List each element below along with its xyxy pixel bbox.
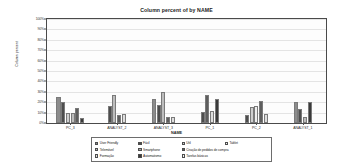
x-axis-labels: PC_3ANALYST_2ANALYST_3PC_1PC_2ANALYST_1: [47, 126, 326, 130]
legend-label: Formação: [100, 154, 114, 158]
legend-swatch-icon: [138, 148, 141, 151]
legend-label: Fácil: [143, 141, 149, 145]
x-axis-tick-label: ANALYST_3: [140, 126, 187, 130]
x-axis-tick-label: ANALYST_1: [280, 126, 327, 130]
y-axis-tick: [44, 71, 46, 72]
x-axis-tick-label: ANALYST_2: [94, 126, 141, 130]
y-axis-tick: [44, 39, 46, 40]
bar-group: [187, 19, 234, 123]
bar: [108, 106, 112, 123]
bar: [171, 117, 175, 123]
bar: [166, 117, 170, 123]
bar: [161, 92, 165, 123]
legend-item[interactable]: Tarefas básicas: [182, 153, 225, 159]
bar-group: [47, 19, 94, 123]
y-axis-tick: [44, 102, 46, 103]
y-axis-tick: [44, 91, 46, 92]
bar: [264, 114, 268, 123]
legend-label: Tarefas básicas: [186, 154, 207, 158]
bar-group: [140, 19, 187, 123]
y-axis-tick-label: 100%: [36, 17, 44, 21]
x-axis-tick: [70, 123, 71, 125]
y-axis-tick: [44, 60, 46, 61]
bar: [157, 105, 161, 123]
legend-swatch-icon: [138, 154, 141, 157]
legend-label: Tablet: [230, 141, 238, 145]
legend-label: User Friendly: [100, 141, 118, 145]
x-axis-tick-label: PC_2: [233, 126, 280, 130]
bar: [56, 97, 60, 123]
bar: [259, 101, 263, 123]
bar: [122, 114, 126, 123]
bar: [210, 111, 214, 123]
legend-label: Smartphone: [143, 148, 160, 152]
y-axis-tick: [44, 81, 46, 82]
legend-swatch-icon: [95, 154, 98, 157]
x-axis-tick: [117, 123, 118, 125]
x-axis-tick-label: PC_3: [47, 126, 94, 130]
chart-container: Column percent of by NAME Column percent…: [0, 0, 353, 167]
bar-group: [94, 19, 141, 123]
bar: [294, 102, 298, 123]
bar: [75, 108, 79, 123]
legend-label: Criação de pedidos de compra: [186, 148, 228, 152]
legend-label: Automatismo: [143, 154, 161, 158]
bar: [152, 99, 156, 123]
bar: [66, 113, 70, 123]
bar-groups: [47, 19, 326, 123]
legend-label: Útil: [186, 141, 190, 145]
bar-group: [280, 19, 327, 123]
y-axis-tick: [44, 123, 46, 124]
bar: [80, 118, 84, 123]
legend-label: Telemóvel: [100, 148, 114, 152]
legend-swatch-icon: [182, 154, 185, 157]
bar-group: [233, 19, 280, 123]
x-axis-tick: [303, 123, 304, 125]
y-axis-tick: [44, 29, 46, 30]
bar: [308, 102, 312, 123]
chart-legend: User FriendlyFácilÚtilTabletTelemóvelSma…: [91, 137, 272, 162]
bar: [61, 102, 65, 123]
legend-swatch-icon: [138, 142, 141, 145]
bar: [245, 115, 249, 123]
x-axis-tick: [210, 123, 211, 125]
bar: [112, 95, 116, 123]
chart-title: Column percent of by NAME: [0, 7, 353, 13]
bar: [254, 106, 258, 123]
bar: [205, 95, 209, 123]
bar: [201, 112, 205, 123]
legend-swatch-icon: [225, 142, 228, 145]
bar: [215, 99, 219, 123]
y-axis-tick: [44, 50, 46, 51]
legend-swatch-icon: [95, 148, 98, 151]
legend-item[interactable]: Formação: [95, 153, 138, 159]
x-axis-tick: [256, 123, 257, 125]
legend-item[interactable]: Automatismo: [138, 153, 181, 159]
legend-swatch-icon: [95, 142, 98, 145]
x-axis-title: NAME: [0, 131, 353, 135]
y-axis-tick: [44, 19, 46, 20]
legend-swatch-icon: [182, 142, 185, 145]
y-axis-tick: [44, 112, 46, 113]
y-axis-labels: 0%10%20%30%40%50%60%70%80%90%100%: [22, 18, 44, 124]
bar: [71, 113, 75, 123]
x-axis-tick-label: PC_1: [187, 126, 234, 130]
legend-swatch-icon: [182, 148, 185, 151]
x-axis-tick: [163, 123, 164, 125]
y-axis-title: Column percent: [15, 24, 19, 84]
bar: [250, 107, 254, 123]
bar: [298, 109, 302, 123]
bar: [117, 115, 121, 123]
